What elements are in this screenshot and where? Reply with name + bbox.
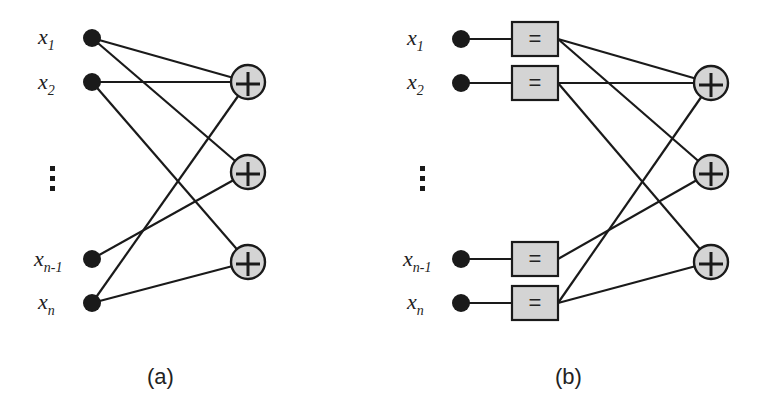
input-label-xn: xn [406,289,424,318]
caption-a: (a) [147,364,174,389]
input-node [83,73,101,91]
ellipsis-a [50,166,55,191]
input-node [452,294,470,312]
input-label-x1: x1 [406,25,424,54]
edge [92,172,248,259]
input-node [452,74,470,92]
input-label-x2: x2 [406,69,424,98]
panel-b [458,39,711,303]
edge [92,82,248,262]
equality-boxes-b: = = = = [512,22,558,320]
diagram-canvas: x1 x2 xn-1 xn (a) = [0,0,774,409]
input-label-xn-1: xn-1 [402,246,431,275]
svg-text:=: = [529,246,542,271]
input-nodes-b [452,30,470,312]
equality-node: = [512,242,558,276]
ellipsis-b [420,166,425,191]
input-node [83,294,101,312]
svg-text:=: = [529,290,542,315]
input-node [83,29,101,47]
input-label-xn: xn [37,289,55,318]
input-label-x2: x2 [37,69,55,98]
svg-text:=: = [529,70,542,95]
svg-text:=: = [529,26,542,51]
adder-node [231,245,265,279]
input-label-xn-1: xn-1 [33,246,62,275]
adder-node [694,155,728,189]
edge [558,39,711,83]
edge [558,83,711,262]
edge [92,38,248,172]
equality-node: = [512,22,558,56]
adder-node [231,155,265,189]
adder-node [694,66,728,100]
adder-node [694,245,728,279]
equality-node: = [512,286,558,320]
edge [558,172,711,259]
edge [558,39,711,172]
edge [92,82,248,303]
panel-a [92,38,248,303]
edge [92,38,248,82]
edge [558,83,711,303]
input-node [452,250,470,268]
caption-b: (b) [555,364,582,389]
equality-node: = [512,66,558,100]
adder-node [231,65,265,99]
input-node [83,250,101,268]
input-node [452,30,470,48]
input-nodes-a [83,29,101,312]
input-label-x1: x1 [37,24,55,53]
